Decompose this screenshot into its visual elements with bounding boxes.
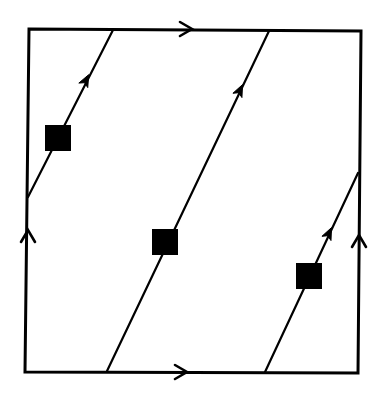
markers <box>45 125 322 289</box>
flow-line-segment <box>107 31 269 371</box>
square-outline <box>25 29 361 373</box>
flow-line-segment <box>28 30 113 197</box>
flow-line-a <box>28 30 113 197</box>
torus-flow-diagram <box>0 0 389 397</box>
diagram-canvas <box>0 0 389 397</box>
flow-line-b <box>107 31 269 371</box>
square-marker <box>45 125 71 151</box>
square-marker <box>296 263 322 289</box>
flow-lines <box>28 30 358 372</box>
square-marker <box>152 229 178 255</box>
edge-arrows <box>21 22 366 379</box>
square-boundary <box>25 29 361 373</box>
